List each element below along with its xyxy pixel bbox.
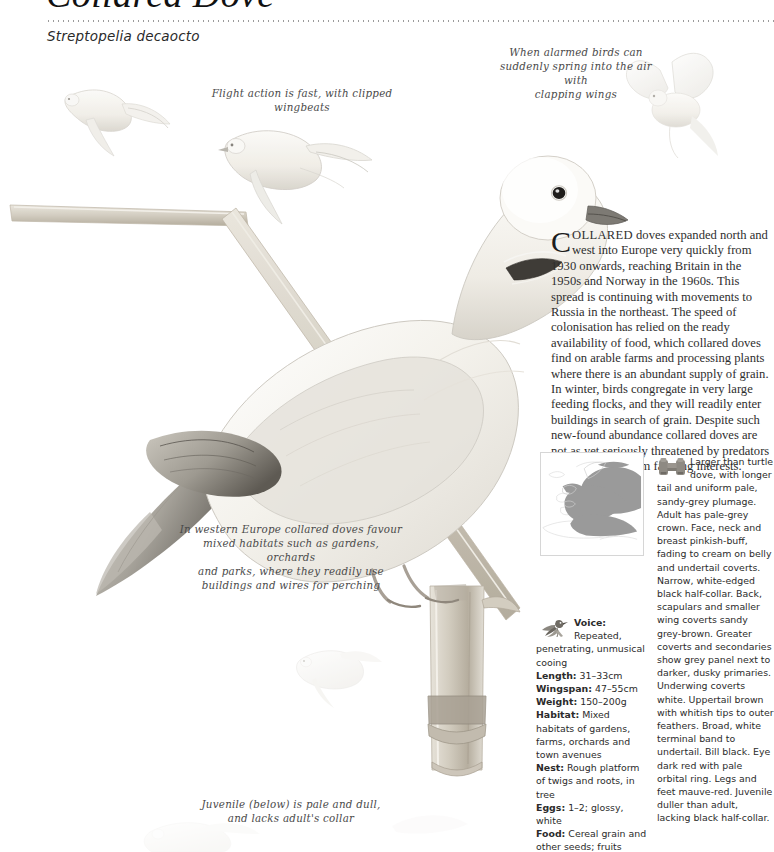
fact-eggs-label: Eggs: [536,802,565,813]
species-essay: COLLARED doves expanded north and west i… [551,228,773,475]
annotation-habitat: In western Europe collared doves favour … [178,522,404,592]
fact-weight-value: 150–200g [580,696,626,707]
annotation-alarm: When alarmed birds can suddenly spring i… [493,45,659,101]
scientific-name: Streptopelia decaocto [47,28,200,44]
fact-voice-label: Voice: [574,617,606,628]
binoculars-icon [657,456,687,478]
annotation-juvenile: Juvenile (below) is pale and dull, and l… [176,797,406,825]
fact-habitat: Habitat: Mixed habitats of gardens, farm… [536,708,650,761]
fact-food: Food: Cereal grain and other seeds; frui… [536,827,650,852]
fact-habitat-label: Habitat: [536,709,579,720]
fact-block: Voice: Repeated, penetrating, unmusical … [536,616,650,852]
identification-description: Larger than turtle dove, with longer tai… [657,455,774,825]
fact-nest: Nest: Rough platform of twigs and roots,… [536,761,650,801]
fact-length-label: Length: [536,670,577,681]
fact-eggs: Eggs: 1–2; glossy, white [536,801,650,827]
juvenile-dove-bottom [144,823,260,852]
fact-wingspan: Wingspan: 47–55cm [536,682,650,695]
page-title: Collared Dove [46,0,275,16]
essay-body: doves expanded north and west into Europ… [551,228,769,473]
essay-smallcaps: OLLARED [572,228,633,242]
songbird-icon [536,616,570,640]
title-divider [46,20,774,22]
fact-weight: Weight: 150–200g [536,695,650,708]
wooden-post [428,584,520,776]
fact-food-label: Food: [536,828,565,839]
fact-wingspan-value: 47–55cm [595,683,638,694]
fact-weight-label: Weight: [536,696,577,707]
fact-nest-label: Nest: [536,762,564,773]
fact-length: Length: 31–33cm [536,669,650,682]
essay-dropcap: C [551,228,572,254]
annotation-flight: Flight action is fast, with clipped wing… [196,86,408,114]
identification-text: Larger than turtle dove, with longer tai… [657,456,774,823]
distribution-map [540,452,644,556]
juvenile-dove [297,651,382,708]
fact-length-value: 31–33cm [580,670,623,681]
flying-dove-center-left [218,131,372,224]
fact-wingspan-label: Wingspan: [536,683,592,694]
flying-dove-upper-left [65,90,170,156]
